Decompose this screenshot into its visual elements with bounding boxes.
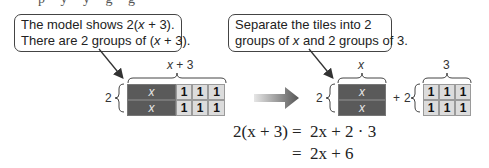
pointer-arrow-left <box>99 49 122 77</box>
one-tile: 1 <box>423 100 439 116</box>
left-tile-model: x 1 1 1 x 1 1 1 <box>127 84 225 116</box>
one-tile: 1 <box>192 84 208 100</box>
x-tile: x <box>338 100 386 116</box>
left-side-label: 2 <box>105 91 112 105</box>
one-tile: 1 <box>439 100 455 116</box>
one-tile: 1 <box>176 100 192 116</box>
plus-sign: + <box>393 91 400 105</box>
ones-group-side-label: 2 <box>404 91 411 105</box>
left-top-label: x + 3 <box>167 58 193 72</box>
one-tile: 1 <box>455 84 471 100</box>
x-tile: x <box>127 100 176 116</box>
one-tile: 1 <box>439 84 455 100</box>
x-tile-group: x x <box>338 84 386 116</box>
right-arrow-icon <box>254 87 299 109</box>
one-tile: 1 <box>455 100 471 116</box>
pointer-arrow-right <box>309 49 332 77</box>
one-tile: 1 <box>208 100 225 116</box>
diagram-lines <box>0 0 489 168</box>
x-group-side-label: 2 <box>316 91 323 105</box>
equation-1-equals: = <box>292 122 302 142</box>
equation-1-lhs: 2(x + 3) <box>212 122 288 142</box>
one-tile: 1 <box>192 100 208 116</box>
x-tile: x <box>127 84 176 100</box>
x-tile: x <box>338 84 386 100</box>
ones-tile-group: 1 1 1 1 1 1 <box>423 84 471 116</box>
equation-1-rhs: 2x + 2 · 3 <box>310 122 376 142</box>
ones-group-top-label: 3 <box>443 58 450 72</box>
equation-2-equals: = <box>292 144 302 164</box>
equation-2-rhs: 2x + 6 <box>310 144 354 164</box>
one-tile: 1 <box>208 84 225 100</box>
one-tile: 1 <box>423 84 439 100</box>
one-tile: 1 <box>176 84 192 100</box>
x-group-top-label: x <box>358 58 364 72</box>
